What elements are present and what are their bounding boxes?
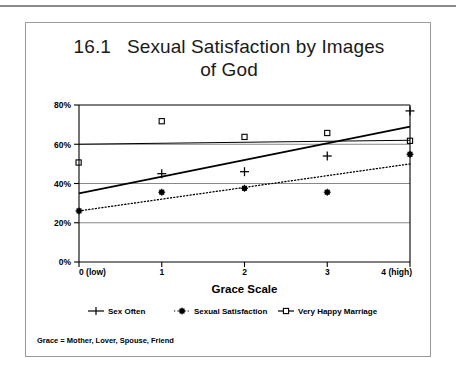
marker-asterisk-x1 <box>158 189 165 196</box>
x-tick-label-1: 1 <box>159 267 164 277</box>
marker-asterisk-x4 <box>407 151 414 158</box>
x-tick-label-3: 3 <box>325 267 330 277</box>
y-tick-label-80: 80% <box>54 100 71 110</box>
square-marker-glyph <box>283 308 288 313</box>
y-tick-label-0: 0% <box>59 257 72 267</box>
x-tick-label-4: 4 (high) <box>381 267 412 277</box>
figure-card: 16.1Sexual Satisfaction by Images of God <box>25 22 431 357</box>
marker-plus-x4 <box>406 106 415 115</box>
legend-item-very-happy-marriage[interactable]: Very Happy Marriage <box>278 307 378 316</box>
y-tick-label-20: 20% <box>54 218 71 228</box>
marker-plus-x3 <box>323 152 332 161</box>
x-axis-tick-labels: 0 (low) 1 2 3 4 (high) <box>79 267 412 277</box>
page-top-rule <box>0 5 456 7</box>
plot-container: 80% 60% 40% 20% 0% 0 (low) 1 2 3 4 (high… <box>26 23 432 358</box>
marker-square-x3 <box>325 130 330 135</box>
y-tick-label-60: 60% <box>54 140 71 150</box>
legend-label-very-happy-marriage: Very Happy Marriage <box>298 307 378 316</box>
y-tick-marks <box>74 105 79 262</box>
marker-asterisk-x2 <box>241 185 248 192</box>
y-tick-label-40: 40% <box>54 179 71 189</box>
y-axis-tick-labels: 80% 60% 40% 20% 0% <box>54 100 71 267</box>
x-tick-label-0: 0 (low) <box>79 267 106 277</box>
marker-plus-x2 <box>240 167 249 176</box>
chart-legend: Sex Often Sexual Satisfaction <box>88 307 378 316</box>
marker-asterisk-x0 <box>76 207 83 214</box>
legend-item-sex-often[interactable]: Sex Often <box>88 307 145 316</box>
chart-svg: 80% 60% 40% 20% 0% 0 (low) 1 2 3 4 (high… <box>26 23 432 358</box>
asterisk-marker-glyph <box>179 308 186 315</box>
trendline-very-happy-marriage <box>79 140 410 144</box>
x-axis-title: Grace Scale <box>212 283 278 295</box>
figure-footnote: Grace = Mother, Lover, Spouse, Friend <box>37 336 174 345</box>
marker-square-x2 <box>242 134 247 139</box>
plus-marker-icon <box>88 307 104 315</box>
legend-label-sex-often: Sex Often <box>108 307 145 316</box>
legend-item-sexual-satisfaction[interactable]: Sexual Satisfaction <box>174 307 267 316</box>
marker-asterisk-x3 <box>324 189 331 196</box>
marker-square-x1 <box>159 119 164 124</box>
legend-label-sexual-satisfaction: Sexual Satisfaction <box>194 307 267 316</box>
x-tick-label-2: 2 <box>242 267 247 277</box>
